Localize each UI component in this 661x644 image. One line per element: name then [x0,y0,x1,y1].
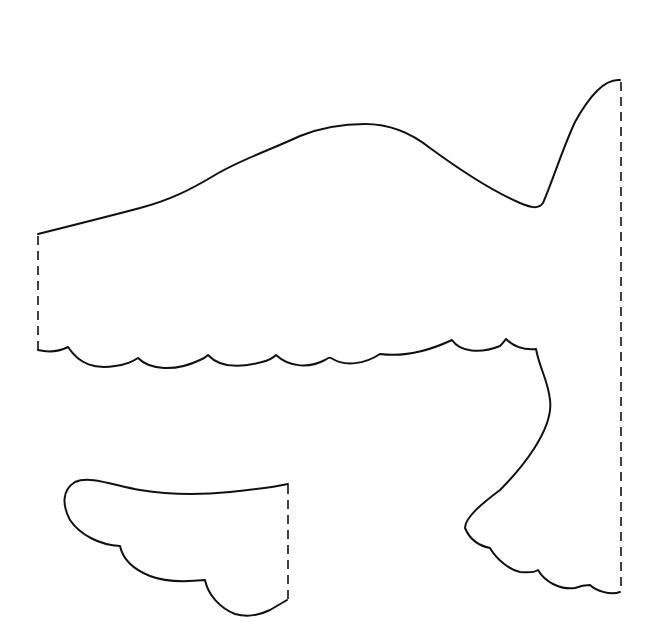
template-canvas [0,0,661,644]
body-bottom-scallop-outline [38,339,620,593]
wing-outline [65,480,288,616]
body-top-outline [38,80,620,234]
